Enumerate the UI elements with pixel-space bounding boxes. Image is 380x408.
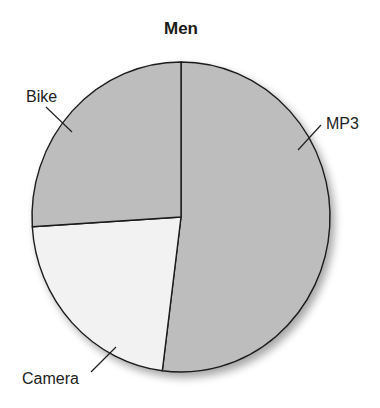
slice-label-bike: Bike: [26, 88, 57, 105]
slice-label-camera: Camera: [22, 370, 79, 387]
pie-slice-mp3: [162, 62, 330, 372]
leader-line-camera: [91, 347, 116, 372]
slice-label-mp3: MP3: [326, 115, 359, 132]
pie-slices: [32, 62, 330, 372]
chart-title: Men: [164, 19, 198, 38]
pie-slice-bike: [32, 62, 181, 227]
pie-slice-camera: [32, 217, 181, 371]
pie-chart: Men MP3 Camera Bike: [0, 0, 380, 408]
